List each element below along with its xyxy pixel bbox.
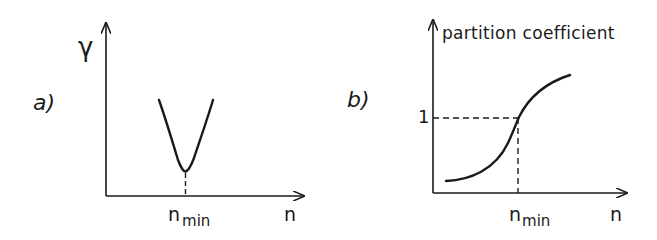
- panel-a-x-axis-label: n: [284, 205, 296, 224]
- panel-a-label: a): [33, 92, 55, 114]
- panel-b-label: b): [347, 89, 370, 111]
- panel-b-nmin-sub: min: [522, 212, 550, 230]
- panel-b-y-tick-label: 1: [418, 108, 429, 126]
- panel-a-y-axis-label: γ: [78, 34, 93, 60]
- panel-b-nmin-main: n: [509, 203, 521, 225]
- panel-b-y-axis-label: partition coefficient: [442, 25, 615, 42]
- panel-a-gamma-curve: [159, 100, 213, 172]
- panel-b-nmin-label: nmin: [509, 205, 550, 224]
- panel-a-nmin-label: nmin: [168, 205, 210, 224]
- panel-b-x-axis-label: n: [610, 205, 622, 224]
- panel-a-nmin-main: n: [168, 203, 180, 225]
- panel-b-sigmoid-curve: [446, 75, 570, 181]
- panel-a-nmin-sub: min: [182, 212, 210, 230]
- panel-b-graph: [433, 20, 627, 193]
- panel-a-graph: [106, 23, 304, 196]
- figure: γ a) nmin n partition coefficient b) 1 n…: [0, 0, 657, 240]
